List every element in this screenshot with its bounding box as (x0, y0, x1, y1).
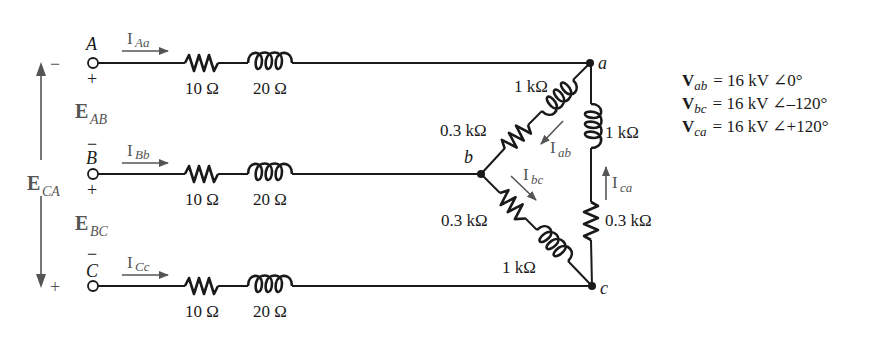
line-inductor-a (248, 53, 292, 70)
svg-text:ca: ca (620, 180, 633, 195)
terminal-c (88, 281, 98, 291)
equation-vbc: Vbc= 16 kV ∠–120° (682, 93, 829, 116)
line-resistor-c-label: 10 Ω (185, 302, 219, 321)
terminal-a-label: A (85, 34, 98, 54)
branch-bc-resistor-label: 0.3 kΩ (441, 211, 488, 230)
line-resistor-b (185, 166, 218, 182)
svg-text:E: E (75, 100, 88, 122)
current-i-ab: I ab (541, 121, 572, 160)
eq-sub: bc (694, 101, 706, 116)
terminal-b-label: B (86, 148, 97, 168)
eq-sub: ab (694, 78, 707, 93)
eq-var: V (682, 93, 694, 115)
current-i-ca: I ca (606, 167, 633, 200)
line-resistor-c (185, 278, 218, 294)
current-i-bc: I bc (511, 165, 544, 200)
line-inductor-b-label: 20 Ω (253, 190, 287, 209)
current-i-bb: I Bb (122, 141, 168, 163)
branch-ca (584, 63, 602, 286)
branch-bc (481, 174, 592, 286)
terminal-b (88, 169, 98, 179)
equation-vca: Vca= 16 kV ∠+120° (682, 116, 829, 139)
node-b-label: b (464, 147, 473, 167)
eq-value: = 16 kV ∠0° (713, 71, 802, 90)
line-inductor-a-label: 20 Ω (253, 79, 287, 98)
svg-text:CA: CA (42, 184, 60, 199)
label-e-ab: E AB (75, 100, 108, 127)
svg-text:E: E (75, 212, 88, 234)
svg-text:I: I (127, 141, 133, 160)
given-voltages: Vab= 16 kV ∠0° Vbc= 16 kV ∠–120° Vca= 16… (682, 70, 829, 139)
branch-ab-resistor-label: 0.3 kΩ (440, 121, 487, 140)
equation-vab: Vab= 16 kV ∠0° (682, 70, 829, 93)
polarity-a-plus: + (87, 69, 97, 89)
svg-text:bc: bc (531, 172, 544, 187)
terminal-a (88, 58, 98, 68)
eq-sub: ca (694, 124, 706, 139)
line-resistor-a-label: 10 Ω (185, 79, 219, 98)
svg-text:I: I (523, 165, 529, 184)
branch-bc-inductor-label: 1 kΩ (502, 258, 536, 277)
svg-text:Aa: Aa (134, 35, 150, 50)
eq-var: V (682, 70, 694, 92)
label-e-bc: E BC (75, 212, 109, 239)
line-inductor-c-label: 20 Ω (253, 302, 287, 321)
node-a-label: a (598, 53, 607, 73)
circuit-diagram: − + E CA A + I Aa 10 Ω 20 Ω E AB − B + I… (0, 0, 881, 343)
current-i-aa: I Aa (122, 29, 168, 51)
line-resistor-b-label: 10 Ω (185, 190, 219, 209)
polarity-b-plus: + (87, 180, 97, 200)
svg-text:I: I (127, 29, 133, 48)
svg-text:I: I (612, 173, 618, 192)
current-i-cc: I Cc (122, 253, 168, 275)
polarity-ca-plus: + (50, 277, 60, 297)
svg-text:I: I (550, 138, 556, 157)
branch-ca-inductor-label: 1 kΩ (605, 123, 639, 142)
eq-var: V (682, 116, 694, 138)
line-inductor-b (248, 164, 292, 181)
svg-text:E: E (27, 172, 40, 194)
line-resistor-a (185, 55, 218, 71)
node-c-label: c (600, 278, 608, 298)
line-inductor-c (248, 276, 292, 293)
eq-value: = 16 kV ∠+120° (713, 117, 829, 136)
branch-ab-inductor-label: 1 kΩ (514, 77, 548, 96)
svg-text:BC: BC (90, 224, 109, 239)
svg-text:ab: ab (558, 145, 572, 160)
terminal-c-label: C (86, 261, 99, 281)
eq-value: = 16 kV ∠–120° (713, 94, 828, 113)
label-e-ca: E CA (27, 172, 60, 199)
svg-text:AB: AB (89, 112, 108, 127)
svg-text:Cc: Cc (135, 259, 150, 274)
polarity-ca-minus: − (50, 54, 60, 74)
svg-text:I: I (127, 253, 133, 272)
svg-text:Bb: Bb (135, 147, 150, 162)
branch-ca-resistor-label: 0.3 kΩ (605, 211, 652, 230)
